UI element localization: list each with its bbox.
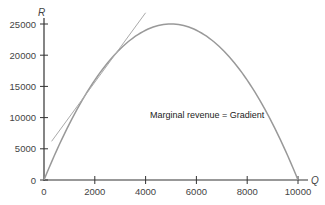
x-ticks: 0200040006000800010000: [41, 176, 311, 197]
tangent-line: [52, 13, 146, 142]
x-tick-label: 0: [41, 186, 46, 197]
x-tick-label: 4000: [135, 186, 156, 197]
annotation-label: Marginal revenue = Gradient: [150, 110, 265, 120]
y-tick-label: 0: [31, 175, 36, 186]
y-tick-label: 10000: [10, 112, 36, 123]
revenue-curve: [44, 24, 298, 180]
y-ticks: 0500010000150002000025000: [10, 19, 48, 186]
y-tick-label: 25000: [10, 19, 36, 30]
x-tick-label: 6000: [186, 186, 207, 197]
revenue-chart: 0500010000150002000025000 02000400060008…: [0, 0, 325, 205]
y-tick-label: 20000: [10, 50, 36, 61]
x-tick-label: 8000: [237, 186, 258, 197]
x-axis-title: Q: [311, 175, 319, 186]
x-tick-label: 10000: [285, 186, 311, 197]
y-tick-label: 15000: [10, 81, 36, 92]
x-tick-label: 2000: [84, 186, 105, 197]
y-axis-title: R: [38, 7, 45, 18]
y-tick-label: 5000: [15, 143, 36, 154]
